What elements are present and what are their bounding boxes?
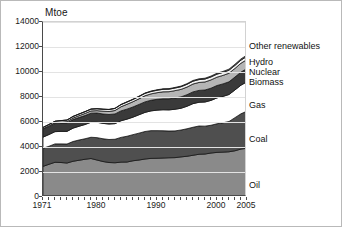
y-axis-tick-label: 10000 — [5, 66, 39, 76]
series-label-oil: Oil — [249, 181, 260, 190]
y-axis-tick-label: 2000 — [5, 166, 39, 176]
x-axis-tick-mark — [120, 197, 121, 200]
x-axis-tick-mark — [144, 197, 145, 200]
x-axis-tick-label: 1980 — [87, 200, 106, 210]
gridline — [43, 47, 245, 48]
series-label-hydro: Hydro — [249, 58, 273, 67]
y-axis-unit-label: Mtoe — [45, 7, 68, 18]
y-axis-tick-label: 8000 — [5, 91, 39, 101]
x-axis-tick-mark — [132, 197, 133, 200]
gridline — [43, 22, 245, 23]
x-axis-tick-mark — [72, 197, 73, 200]
gridline — [43, 72, 245, 73]
series-label-other-renewables: Other renewables — [249, 42, 320, 51]
series-label-coal: Coal — [249, 135, 268, 144]
x-axis-tick-mark — [234, 197, 235, 200]
x-axis-tick-mark — [60, 197, 61, 200]
x-axis-tick-mark — [192, 197, 193, 200]
x-axis-tick-mark — [66, 197, 67, 200]
gridline — [43, 147, 245, 148]
stacked-area-chart: Mtoe 02000400060008000100001200014000 19… — [1, 1, 341, 226]
x-axis-tick-mark — [180, 197, 181, 200]
gridline — [43, 97, 245, 98]
x-axis-tick-mark — [204, 197, 205, 200]
x-axis-tick-mark — [54, 197, 55, 200]
x-axis-tick-label: 1971 — [33, 200, 52, 210]
x-axis-tick-mark — [168, 197, 169, 200]
y-axis-tick-label: 12000 — [5, 41, 39, 51]
x-axis-tick-mark — [78, 197, 79, 200]
gridline — [43, 122, 245, 123]
x-axis-tick-mark — [108, 197, 109, 200]
series-label-nuclear: Nuclear — [249, 68, 280, 77]
x-axis-tick-mark — [114, 197, 115, 200]
area-series-group — [43, 22, 246, 196]
x-axis-tick-label: 2005 — [237, 200, 256, 210]
y-axis-tick-label: 14000 — [5, 16, 39, 26]
chart-frame: Mtoe 02000400060008000100001200014000 19… — [0, 0, 342, 227]
x-axis-tick-mark — [228, 197, 229, 200]
x-axis-tick-mark — [186, 197, 187, 200]
x-axis-tick-mark — [174, 197, 175, 200]
x-axis-tick-mark — [84, 197, 85, 200]
plot-area — [42, 21, 246, 196]
x-axis-tick-mark — [126, 197, 127, 200]
x-axis-tick-mark — [138, 197, 139, 200]
y-axis-tick-label: 6000 — [5, 116, 39, 126]
x-axis-tick-label: 1990 — [147, 200, 166, 210]
x-axis-tick-label: 2000 — [207, 200, 226, 210]
y-axis-tick-label: 4000 — [5, 141, 39, 151]
series-label-biomass: Biomass — [249, 78, 284, 87]
y-axis: 02000400060008000100001200014000 — [1, 1, 39, 229]
series-label-gas: Gas — [249, 101, 266, 110]
gridline — [43, 172, 245, 173]
x-axis-tick-mark — [198, 197, 199, 200]
